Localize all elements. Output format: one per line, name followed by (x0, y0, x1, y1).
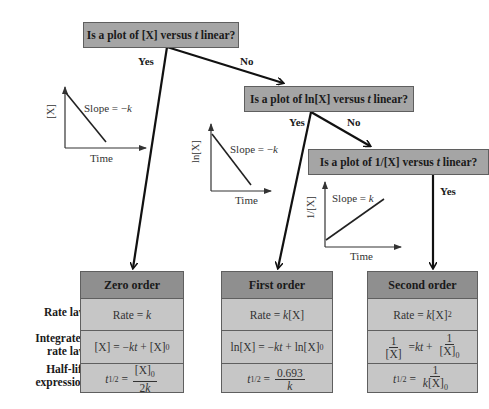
second-order-integrated: 1[X] = kt + 1[X]0 (368, 331, 477, 364)
first-order-half-life: t1/2 = 0.693k (222, 364, 332, 394)
plot-ylabel: [X] (45, 104, 56, 119)
question-zero-order: Is a plot of [X] versus t linear? (83, 22, 239, 48)
branch-yes-label: Yes (138, 55, 154, 67)
plot-slope-label: Slope = −k (84, 102, 132, 114)
branch-yes-label: Yes (289, 116, 305, 128)
plot-ylabel: 1/[X] (305, 196, 316, 219)
plot-slope-label: Slope = k (332, 192, 374, 204)
first-order-table: First order Rate = k[X] ln[X] = −kt + ln… (221, 271, 333, 393)
plot-slope-label: Slope = −k (230, 143, 278, 155)
second-order-rate-law: Rate = k[X]2 (368, 299, 477, 331)
question-first-order: Is a plot of ln[X] versus t linear? (244, 86, 414, 112)
zero-order-half-life: t1/2 = [X]02k (81, 364, 183, 394)
plot-xlabel: Time (235, 194, 258, 206)
zero-order-table: Zero order Rate = k [X] = −kt + [X]0 t1/… (80, 271, 184, 393)
plot-xlabel: Time (350, 250, 373, 262)
second-order-table: Second order Rate = k[X]2 1[X] = kt + 1[… (367, 271, 478, 393)
plot-ylabel: ln[X] (190, 140, 201, 163)
branch-yes-label: Yes (440, 185, 456, 197)
question-text: Is a plot of ln[X] versus t linear? (250, 93, 408, 105)
branch-no-label: No (347, 116, 360, 128)
first-order-rate-law: Rate = k[X] (222, 299, 332, 331)
zero-order-rate-law: Rate = k (81, 299, 183, 331)
question-text: Is a plot of 1/[X] versus t linear? (320, 156, 478, 168)
first-order-integrated: ln[X] = −kt + ln[X]0 (222, 331, 332, 364)
plot-xlabel: Time (90, 152, 113, 164)
second-order-half-life: t1/2 = 1k[X]0 (368, 364, 477, 394)
zero-order-integrated: [X] = −kt + [X]0 (81, 331, 183, 364)
branch-no-label: No (240, 55, 253, 67)
second-order-title: Second order (368, 272, 477, 299)
zero-order-title: Zero order (81, 272, 183, 299)
question-second-order: Is a plot of 1/[X] versus t linear? (308, 149, 489, 175)
question-text: Is a plot of [X] versus t linear? (87, 29, 236, 41)
first-order-title: First order (222, 272, 332, 299)
